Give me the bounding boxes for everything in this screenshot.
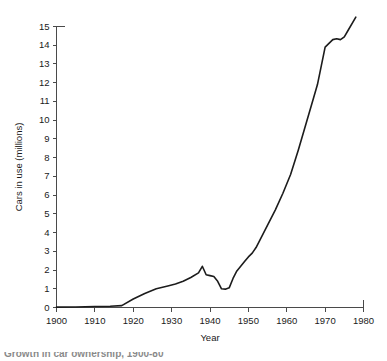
x-tick-label: 1980: [353, 315, 374, 326]
x-tick-label: 1950: [238, 315, 259, 326]
y-tick-label: 1: [44, 283, 49, 294]
y-tick-label: 7: [44, 170, 49, 181]
y-tick-label: 12: [39, 77, 50, 88]
y-axis-title: Cars in use (millions): [13, 123, 24, 212]
x-tick-label: 1960: [276, 315, 297, 326]
axes: [57, 27, 364, 308]
y-tick-label: 11: [40, 95, 50, 106]
x-axis-title: Year: [200, 332, 219, 343]
y-tick-label: 10: [39, 114, 50, 125]
x-tick-label: 1930: [161, 315, 182, 326]
series-line: [57, 17, 356, 307]
y-tick-label: 14: [39, 39, 50, 50]
data-series: [57, 17, 356, 307]
y-tick-label: 6: [44, 189, 49, 200]
y-tick-label: 2: [44, 264, 49, 275]
x-tick-label: 1900: [46, 315, 67, 326]
x-tick-label: 1910: [84, 315, 105, 326]
x-tick-label: 1940: [199, 315, 220, 326]
y-tick-label: 5: [44, 208, 49, 219]
y-tick-labels: 0123456789101112131415: [39, 21, 50, 313]
x-tick-label: 1970: [315, 315, 336, 326]
y-tick-label: 0: [44, 302, 49, 313]
y-tick-label: 13: [39, 58, 50, 69]
y-tick-label: 3: [44, 245, 49, 256]
y-tick-label: 9: [44, 133, 49, 144]
tick-marks: [53, 27, 364, 312]
line-chart: 0123456789101112131415 19001910192019301…: [0, 0, 387, 361]
axis-spine: [57, 27, 364, 308]
x-tick-label: 1920: [123, 315, 144, 326]
y-tick-label: 15: [39, 21, 50, 32]
y-tick-label: 4: [44, 227, 49, 238]
y-tick-label: 8: [44, 152, 49, 163]
figure-caption: Growth in car ownership, 1900-80: [4, 352, 264, 361]
figure-caption-text: Growth in car ownership, 1900-80: [4, 352, 264, 359]
x-tick-labels: 190019101920193019401950196019701980: [46, 315, 374, 326]
chart-figure: 0123456789101112131415 19001910192019301…: [0, 0, 387, 361]
